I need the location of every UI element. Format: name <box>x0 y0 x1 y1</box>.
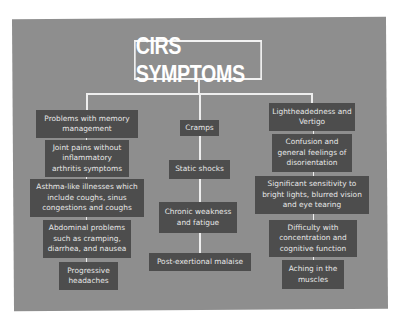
symptom-node-left-3: Asthma-like illnesses which include coug… <box>30 179 144 217</box>
symptom-node-right-2: Confusion and general feelings of disori… <box>272 134 352 172</box>
symptom-node-left-4: Abdominal problems such as cramping, dia… <box>43 220 131 258</box>
connector-left-stem <box>86 93 88 110</box>
symptom-node-center-2: Static shocks <box>169 160 230 179</box>
symptom-node-left-1: Problems with memory management <box>36 110 138 138</box>
symptom-node-left-5: Progressive headaches <box>59 262 118 290</box>
symptom-node-left-2: Joint pains without inflammatory arthrit… <box>45 140 129 177</box>
diagram-title: CIRS SYMPTOMS <box>134 40 262 80</box>
symptom-node-right-4: Difficulty with concentration and cognit… <box>269 220 357 257</box>
connector-right-stem <box>311 93 313 103</box>
symptom-node-center-3: Chronic weakness and fatigue <box>159 202 237 233</box>
symptom-node-right-3: Significant sensitivity to bright lights… <box>255 176 369 214</box>
symptom-node-right-5: Aching in the muscles <box>282 260 344 289</box>
symptom-node-center-1: Cramps <box>180 120 219 136</box>
symptom-node-center-4: Post-exertional malaise <box>149 253 251 271</box>
symptom-node-right-1: Lightheadedness and Vertigo <box>269 103 355 131</box>
